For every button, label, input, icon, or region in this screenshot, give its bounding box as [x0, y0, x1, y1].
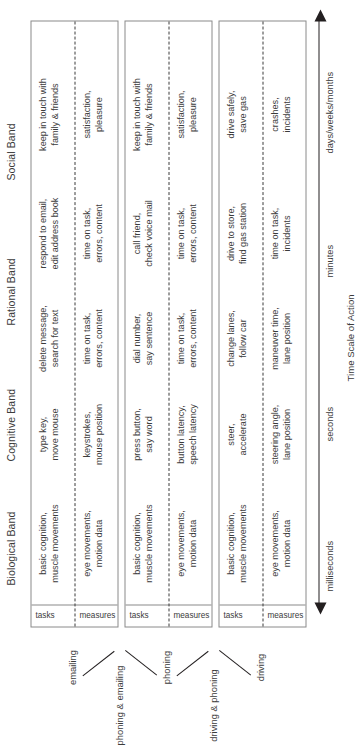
cell-emailing-measures-social: satisfaction, pleasure: [81, 54, 104, 174]
axis-tick-minutes: minutes: [324, 244, 334, 277]
tree-connector-phoning-down: [176, 650, 208, 675]
band-label-biological: Biological Band: [4, 511, 16, 585]
cell-emailing-tasks-cognitive-low: type key, move mouse: [37, 388, 60, 480]
row-label-tasks: tasks: [35, 611, 54, 620]
arrow-left-icon: [314, 602, 326, 614]
cell-driving-measures-cognitive-high: maneuver time, lane position: [269, 290, 292, 386]
tree-connector-emailing: [82, 650, 114, 675]
time-scale-axis: [318, 20, 319, 603]
tree-leaf-emailing: emailing: [66, 631, 77, 703]
axis-tick-seconds: seconds: [324, 406, 334, 441]
cell-phoning-tasks-social: keep in touch with family & friends: [131, 54, 154, 174]
cell-driving-measures-social: crashes, incidents: [269, 54, 292, 174]
cell-phoning-tasks-rational: call friend, check voice mail: [131, 178, 154, 288]
cell-emailing-tasks-biological: basic cognition, muscle movements: [37, 484, 60, 602]
cell-driving-tasks-cognitive-low: steer, accelerate: [225, 388, 248, 480]
cell-driving-measures-rational: time on task, incidents: [269, 178, 292, 288]
cell-phoning-measures-rational: time on task, errors, content: [175, 178, 198, 288]
tasks-measures-divider: [168, 21, 169, 626]
cell-phoning-measures-social: satisfaction, pleasure: [175, 54, 198, 174]
cell-phoning-measures-biological: eye movements, motion data: [175, 484, 198, 602]
cell-driving-measures-cognitive-low: steering angle, lane position: [269, 388, 292, 480]
tree-connector-phoning-up: [124, 650, 156, 675]
row-label-measures: measures: [267, 611, 303, 620]
cell-driving-measures-biological: eye movements, motion data: [269, 484, 292, 602]
axis-title: Time Scale of Action: [344, 294, 355, 381]
cell-phoning-measures-cognitive-low: button latency, speech latency: [175, 388, 198, 480]
cell-driving-tasks-biological: basic cognition, muscle movements: [225, 484, 248, 602]
activity-block-phoning: tasks measures basic cognition, muscle m…: [124, 20, 212, 627]
row-label-tasks: tasks: [223, 611, 242, 620]
cell-phoning-tasks-biological: basic cognition, muscle movements: [131, 484, 154, 602]
cell-emailing-measures-cognitive-high: time on task, errors, content: [81, 290, 104, 386]
cell-driving-tasks-rational: drive to store, find gas station: [225, 178, 248, 288]
row-label-tasks: tasks: [129, 611, 148, 620]
cell-emailing-tasks-social: keep in touch with family & friends: [37, 54, 60, 174]
band-label-social: Social Band: [4, 123, 16, 180]
cell-emailing-measures-biological: eye movements, motion data: [81, 484, 104, 602]
band-label-rational: Rational Band: [4, 258, 16, 325]
band-label-cognitive: Cognitive Band: [4, 388, 16, 461]
cell-phoning-tasks-cognitive-high: dial number, say sentence: [131, 290, 154, 386]
axis-tick-milliseconds: milliseconds: [324, 540, 334, 591]
row-label-measures: measures: [79, 611, 115, 620]
cell-driving-tasks-social: drive safely, save gas: [225, 54, 248, 174]
tree-connector-driving: [218, 650, 250, 675]
axis-tick-days-weeks-months: days/weeks/months: [324, 71, 334, 153]
arrow-right-icon: [314, 9, 326, 21]
cell-emailing-measures-cognitive-low: keystrokes, mouse position: [81, 388, 104, 480]
tasks-measures-divider: [74, 21, 75, 626]
band-header-row: Biological Band Cognitive Band Rational …: [0, 0, 26, 627]
cell-driving-tasks-cognitive-high: change lanes, follow car: [225, 290, 248, 386]
tree-combo-driving-phoning: driving & phoning: [207, 625, 218, 749]
activity-block-driving: tasks measures basic cognition, muscle m…: [218, 20, 306, 627]
cell-emailing-tasks-cognitive-high: delete message, search for text: [37, 290, 60, 386]
tree-combo-phoning-emailing: phoning & emailing: [113, 625, 124, 749]
activity-block-emailing: tasks measures basic cognition, muscle m…: [30, 20, 118, 627]
tree-leaf-driving: driving: [254, 631, 265, 703]
cell-phoning-measures-cognitive-high: time on task, errors, content: [175, 290, 198, 386]
activity-tree: emailing phoning driving phoning & email…: [30, 627, 306, 699]
cell-emailing-measures-rational: time on task, errors, content: [81, 178, 104, 288]
tree-leaf-phoning: phoning: [160, 631, 171, 703]
row-label-measures: measures: [173, 611, 209, 620]
cell-emailing-tasks-rational: respond to email, edit address book: [37, 178, 60, 288]
cell-phoning-tasks-cognitive-low: press button, say word: [131, 388, 154, 480]
tasks-measures-divider: [262, 21, 263, 626]
